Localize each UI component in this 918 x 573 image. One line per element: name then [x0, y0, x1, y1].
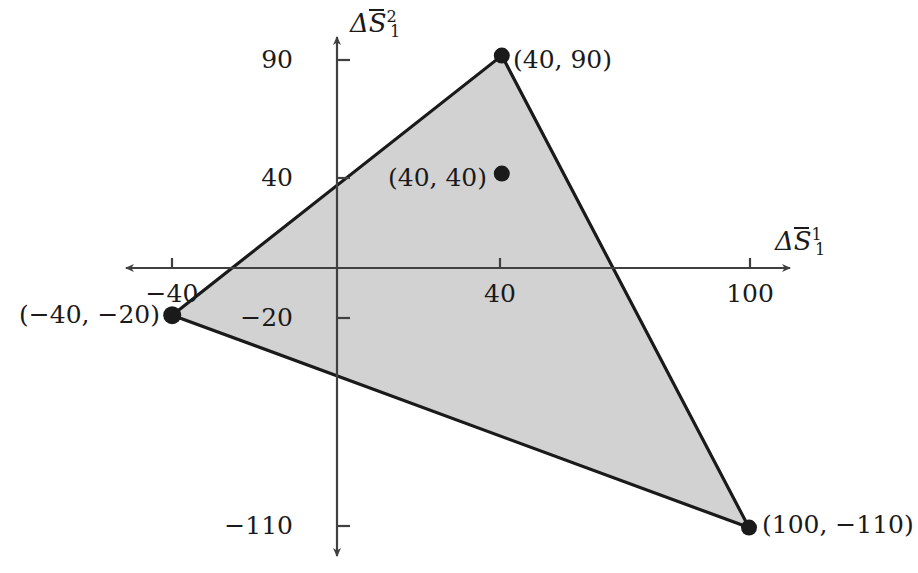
point-label-interior: (40, 40)	[388, 165, 487, 190]
y-axis-title-delta: Δ	[350, 8, 369, 38]
point-marker-40-40	[494, 166, 510, 182]
point-marker-100-minus110	[741, 520, 757, 536]
y-tick-label-minus110: −110	[224, 513, 293, 538]
x-axis-title-delta: Δ	[775, 226, 794, 256]
point-label-vertex-left: (−40, −20)	[19, 302, 160, 327]
y-tick-label-90: 90	[261, 47, 293, 72]
y-tick-label-minus20: −20	[240, 305, 293, 330]
y-axis-title: ΔS21	[350, 10, 407, 36]
y-axis-title-subscript: 1	[390, 22, 400, 41]
point-label-vertex-top: (40, 90)	[513, 47, 612, 72]
plot-canvas	[0, 0, 918, 573]
point-marker-minus40-minus20	[163, 306, 181, 324]
point-label-vertex-bottom-right: (100, −110)	[762, 512, 914, 537]
point-marker-40-90	[494, 48, 510, 64]
x-axis-title-symbol: S	[794, 228, 812, 254]
y-tick-label-40: 40	[261, 165, 293, 190]
figure-container: ΔS21 ΔS11 90 40 −20 −110 −40 40 100 (40,…	[0, 0, 918, 573]
x-tick-label-40: 40	[484, 281, 516, 306]
y-axis-title-symbol: S	[369, 10, 387, 36]
x-axis-title-subscript: 1	[815, 240, 825, 259]
x-axis-title: ΔS11	[775, 228, 832, 254]
x-tick-label-100: 100	[726, 281, 774, 306]
feasible-region-polygon	[172, 56, 749, 528]
